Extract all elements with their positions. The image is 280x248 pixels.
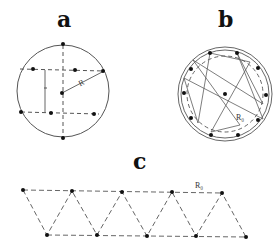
zigzag-strip	[23, 190, 246, 237]
dot	[194, 234, 198, 238]
dot	[61, 42, 65, 46]
diagram-figure: R R₀ R₀	[0, 0, 280, 248]
dot	[31, 67, 35, 71]
dot	[256, 118, 260, 122]
lower-chord	[21, 112, 99, 114]
panel-c-diagram	[23, 190, 246, 237]
dot	[70, 189, 74, 193]
dot	[92, 112, 96, 116]
dot	[120, 190, 124, 194]
dot	[264, 93, 268, 97]
dot	[21, 188, 25, 192]
radius-label-a: R	[77, 77, 86, 88]
zigzag-ring	[184, 53, 263, 132]
panel-b-dots	[182, 51, 268, 137]
dot	[49, 111, 53, 115]
dot	[182, 91, 186, 95]
dot	[101, 69, 105, 73]
dot	[235, 51, 239, 55]
dot	[189, 116, 193, 120]
dot	[95, 233, 99, 237]
dot	[189, 67, 193, 71]
dot	[145, 234, 149, 238]
center-dot	[60, 91, 64, 95]
dot	[61, 136, 65, 140]
radius-label-c: R₀	[195, 181, 203, 190]
dot	[220, 191, 224, 195]
center-dot	[223, 92, 227, 96]
dot	[45, 233, 49, 237]
dot	[244, 235, 248, 239]
dot	[236, 133, 240, 137]
dot	[73, 68, 77, 72]
dot	[19, 110, 23, 114]
dot	[170, 190, 174, 194]
dot	[208, 51, 212, 55]
radius-label-b: R₀	[236, 113, 244, 122]
dot	[209, 133, 213, 137]
dot	[256, 66, 260, 70]
